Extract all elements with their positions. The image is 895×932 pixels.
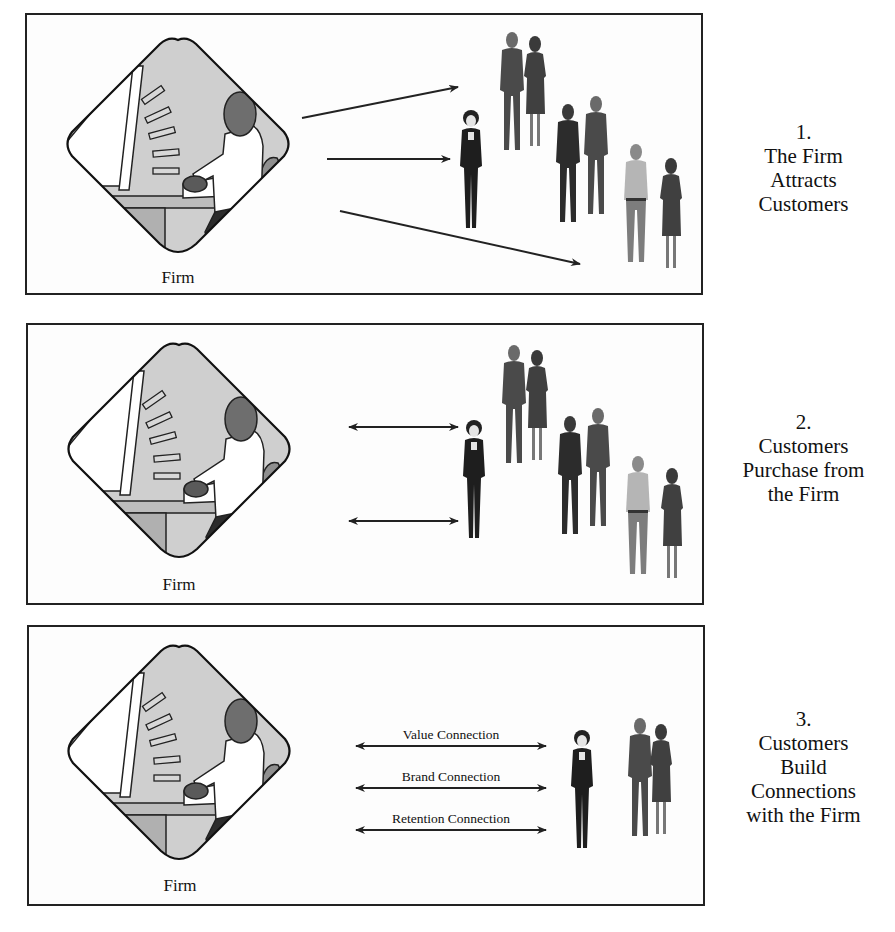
- customer-figure: [650, 724, 672, 834]
- brand-connection-label: Brand Connection: [351, 769, 551, 785]
- firm-label: Firm: [120, 876, 240, 896]
- retention-connection-label: Retention Connection: [351, 811, 551, 827]
- value-connection-label: Value Connection: [351, 727, 551, 743]
- step-number: 3.: [712, 707, 895, 731]
- customer-figure: [571, 730, 593, 848]
- panel-3-caption: 3. Customers Build Connections with the …: [712, 707, 895, 827]
- firm-icon: [66, 646, 290, 869]
- customer-figure: [628, 718, 652, 836]
